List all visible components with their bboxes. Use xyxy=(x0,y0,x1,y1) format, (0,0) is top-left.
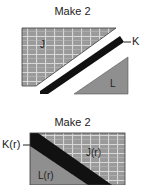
label-k: K xyxy=(132,35,139,47)
label-kr: K(r) xyxy=(2,138,20,150)
top-title: Make 2 xyxy=(0,5,145,17)
bottom-title: Make 2 xyxy=(0,116,145,128)
label-lr: L(r) xyxy=(38,170,54,181)
label-j: J xyxy=(40,39,45,50)
label-l: L xyxy=(110,78,116,89)
label-jr: J(r) xyxy=(86,147,101,158)
pattern-diagram xyxy=(0,0,145,185)
